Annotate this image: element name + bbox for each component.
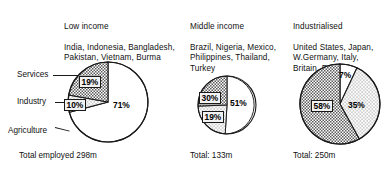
column-members-label: Brazil, Nigeria, Mexico, Philippines, Th…: [190, 43, 276, 75]
slice-label-middle-agriculture: 51%: [230, 98, 247, 108]
column-heading-middle-income: Middle income Brazil, Nigeria, Mexico, P…: [190, 11, 276, 85]
slice-label-industrialised-services: 58%: [311, 100, 333, 112]
callout-label-agriculture: Agriculture: [8, 126, 47, 136]
column-category-label: Industrialised: [293, 22, 373, 33]
slice-label-industrialised-agriculture: 7%: [339, 70, 351, 80]
column-category-label: Low income: [64, 22, 175, 33]
slice-label-low-services: 19%: [79, 76, 101, 88]
slice-label-low-agriculture: 71%: [113, 100, 130, 110]
slice-label-middle-services: 30%: [199, 92, 221, 104]
column-members-label: India, Indonesia, Bangladesh, Pakistan, …: [64, 43, 175, 64]
leader-line-services: [53, 75, 79, 76]
callout-label-services: Services: [17, 70, 48, 80]
total-low-income: Total employed 298m: [19, 151, 97, 161]
column-category-label: Middle income: [190, 22, 276, 33]
total-industrialised: Total: 250m: [293, 151, 335, 161]
employment-pie-chart-figure: Low income India, Indonesia, Bangladesh,…: [0, 0, 389, 174]
slice-label-industrialised-industry: 35%: [348, 100, 365, 110]
callout-label-industry: Industry: [17, 97, 46, 107]
total-middle-income: Total: 133m: [190, 151, 232, 161]
slice-label-middle-industry: 19%: [202, 111, 224, 123]
slice-label-low-industry: 10%: [64, 99, 86, 111]
pie-chart-middle-income: [198, 76, 256, 134]
leader-line-industry: [55, 102, 64, 103]
